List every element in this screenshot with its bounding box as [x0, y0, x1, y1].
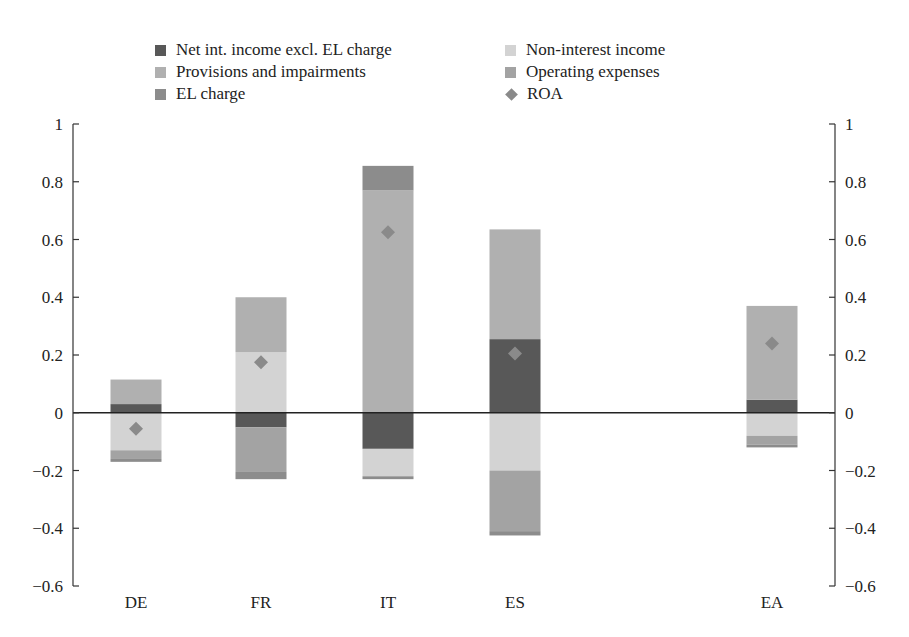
left-tick-label: −0.4 [32, 519, 63, 538]
bar-segment [747, 445, 798, 448]
bar-segment [490, 471, 541, 532]
bar-segment [363, 166, 414, 191]
right-tick-label: 0.4 [845, 288, 867, 307]
right-tick-label: 0.8 [845, 173, 866, 192]
bar-segment [236, 472, 287, 479]
bar-segment [111, 459, 162, 462]
bar-segment [490, 531, 541, 535]
left-tick-label: 0.2 [42, 346, 63, 365]
bar-segment [363, 476, 414, 479]
bar-segment [236, 413, 287, 427]
bar-segment [363, 413, 414, 449]
bar-segment [111, 450, 162, 459]
bar-segment [747, 306, 798, 400]
chart-container: Net int. income excl. EL charge Non-inte… [0, 0, 909, 637]
bar-segment [236, 297, 287, 352]
left-tick-label: 0 [55, 404, 64, 423]
left-tick-label: 0.6 [42, 231, 63, 250]
bar-segment [111, 380, 162, 405]
left-tick-label: −0.6 [32, 577, 63, 596]
right-tick-label: 0.2 [845, 346, 866, 365]
bar-segment [747, 413, 798, 436]
right-tick-label: −0.4 [845, 519, 876, 538]
category-label: IT [380, 593, 397, 612]
bar-segment [747, 436, 798, 445]
bar-segment [236, 427, 287, 472]
category-label: ES [505, 593, 525, 612]
bar-segment [747, 400, 798, 413]
left-tick-label: −0.2 [32, 462, 63, 481]
bar-segment [490, 413, 541, 471]
bar-segment [363, 449, 414, 476]
bar-segment [363, 190, 414, 412]
right-tick-label: 0 [845, 404, 854, 423]
category-label: EA [761, 593, 784, 612]
right-tick-label: −0.2 [845, 462, 876, 481]
category-label: DE [125, 593, 148, 612]
left-tick-label: 0.8 [42, 173, 63, 192]
right-tick-label: 0.6 [845, 231, 866, 250]
bar-segment [111, 404, 162, 413]
plot-area: −0.6−0.6−0.4−0.4−0.2−0.2000.20.20.40.40.… [0, 0, 909, 637]
right-tick-label: 1 [845, 115, 854, 134]
category-label: FR [251, 593, 272, 612]
left-tick-label: 0.4 [42, 288, 64, 307]
right-tick-label: −0.6 [845, 577, 876, 596]
left-tick-label: 1 [55, 115, 64, 134]
bar-segment [490, 229, 541, 339]
